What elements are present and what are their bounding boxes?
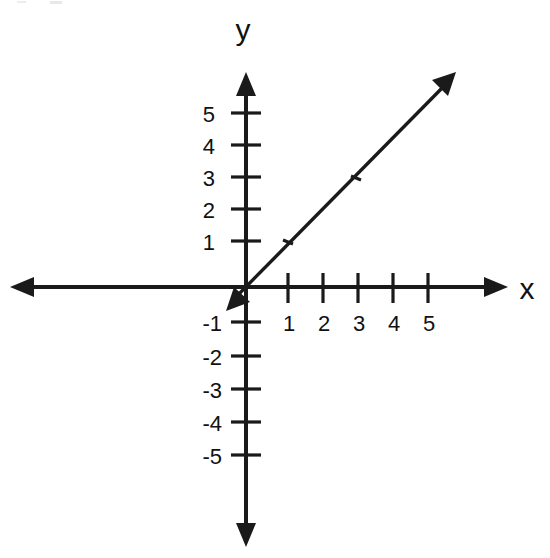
x-tick-labels-positive: 1 2 3 4 5 — [283, 311, 435, 336]
x-tick-label-3: 3 — [353, 311, 365, 336]
x-axis-left-arrow-icon — [10, 277, 34, 297]
y-tick-label-2: 2 — [203, 198, 215, 223]
y-tick-label-3: 3 — [203, 166, 215, 191]
scan-speck-left — [17, 1, 26, 3]
x-axis-label: x — [520, 272, 535, 305]
y-tick-labels-positive: 5 4 3 2 1 — [203, 102, 215, 255]
graph-canvas: 5 4 3 2 1 -1 -2 -3 -4 -5 1 2 3 4 5 y x — [0, 0, 550, 558]
y-axis-down-arrow-icon — [236, 523, 256, 547]
x-axis-group — [10, 277, 508, 297]
line-y-equals-x — [232, 82, 448, 301]
plotted-line-group — [226, 72, 456, 311]
y-axis-up-arrow-icon — [236, 72, 256, 96]
y-tick-label-minus-1: -1 — [202, 311, 222, 336]
y-tick-labels-negative: -1 -2 -3 -4 -5 — [202, 311, 222, 469]
coordinate-plane-figure: 5 4 3 2 1 -1 -2 -3 -4 -5 1 2 3 4 5 y x — [0, 0, 550, 558]
y-tick-label-minus-4: -4 — [202, 411, 222, 436]
x-tick-label-4: 4 — [388, 311, 400, 336]
x-tick-label-2: 2 — [318, 311, 330, 336]
y-axis-group — [236, 72, 256, 547]
y-tick-label-1: 1 — [203, 230, 215, 255]
x-tick-label-5: 5 — [423, 311, 435, 336]
y-tick-label-4: 4 — [203, 134, 215, 159]
y-axis-label: y — [236, 13, 251, 46]
scan-speck-right — [50, 1, 62, 4]
y-tick-label-5: 5 — [203, 102, 215, 127]
y-tick-label-minus-2: -2 — [202, 345, 222, 370]
y-tick-label-minus-5: -5 — [202, 444, 222, 469]
x-axis-right-arrow-icon — [484, 277, 508, 297]
x-tick-label-1: 1 — [283, 311, 295, 336]
y-tick-label-minus-3: -3 — [202, 378, 222, 403]
